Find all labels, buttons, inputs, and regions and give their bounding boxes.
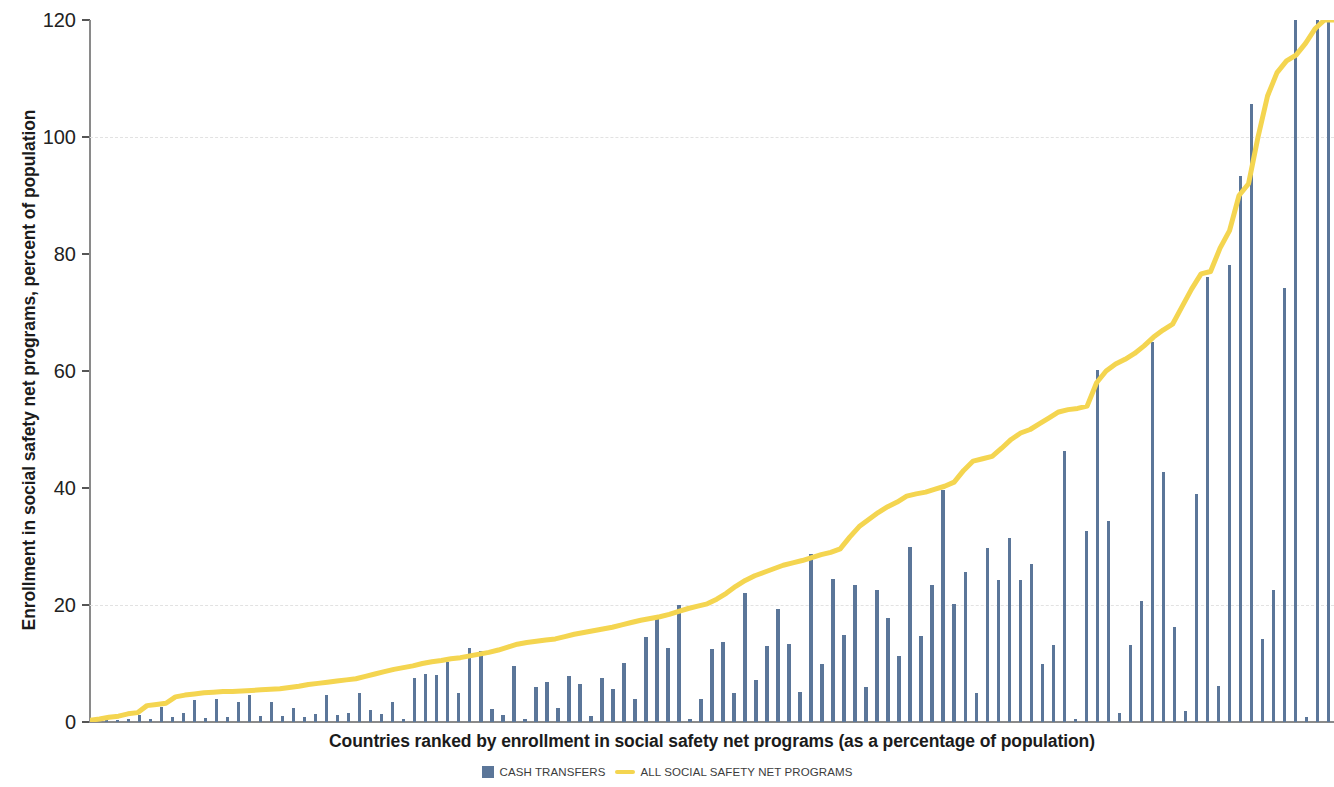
y-tick-label: 20 xyxy=(54,594,82,617)
legend-line-swatch-icon xyxy=(615,770,635,774)
chart-legend: CASH TRANSFERS ALL SOCIAL SAFETY NET PRO… xyxy=(0,766,1334,778)
legend-item-all-programs: ALL SOCIAL SAFETY NET PROGRAMS xyxy=(615,766,853,778)
y-axis-ticks: 020406080100120 xyxy=(0,0,90,787)
legend-item-cash-transfers: CASH TRANSFERS xyxy=(482,766,606,778)
legend-label-cash-transfers: CASH TRANSFERS xyxy=(500,766,606,778)
y-tick-label: 120 xyxy=(43,9,82,32)
legend-label-all-programs: ALL SOCIAL SAFETY NET PROGRAMS xyxy=(641,766,853,778)
y-tick-60: 60 xyxy=(54,359,90,383)
all-programs-line xyxy=(90,20,1334,720)
y-tick-100: 100 xyxy=(43,125,90,149)
y-tick-label: 40 xyxy=(54,477,82,500)
chart-figure: Enrollment in social safety net programs… xyxy=(0,0,1334,787)
y-tick-40: 40 xyxy=(54,476,90,500)
line-series-all-programs xyxy=(90,20,1334,722)
y-tick-80: 80 xyxy=(54,242,90,266)
y-tick-label: 80 xyxy=(54,243,82,266)
x-axis-label: Countries ranked by enrollment in social… xyxy=(90,731,1334,752)
legend-bar-swatch-icon xyxy=(482,766,494,778)
y-tick-0: 0 xyxy=(65,710,90,734)
y-tick-20: 20 xyxy=(54,593,90,617)
line-chart-svg xyxy=(90,20,1334,722)
plot-area xyxy=(90,20,1334,722)
y-tick-label: 100 xyxy=(43,126,82,149)
y-tick-label: 60 xyxy=(54,360,82,383)
y-tick-label: 0 xyxy=(65,711,82,734)
y-tick-120: 120 xyxy=(43,8,90,32)
